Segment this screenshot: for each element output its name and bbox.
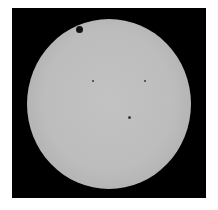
solar-disk bbox=[27, 19, 191, 189]
sunspot bbox=[128, 116, 131, 119]
sunspot bbox=[144, 80, 146, 82]
venus-silhouette bbox=[76, 26, 83, 33]
sunspot bbox=[92, 80, 94, 82]
